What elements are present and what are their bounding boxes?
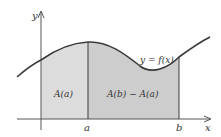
tick-label-b: b xyxy=(176,122,182,133)
diagram-svg: y x a b y = f(x) A(a) A(b) − A(a) xyxy=(0,0,221,137)
curve-label: y = f(x) xyxy=(139,55,174,65)
area-function-diagram: y x a b y = f(x) A(a) A(b) − A(a) xyxy=(0,0,221,137)
region-label-a-of-b-minus-a-of-a: A(b) − A(a) xyxy=(106,89,159,99)
region-a-of-a xyxy=(41,42,88,119)
region-label-a-of-a: A(a) xyxy=(53,89,73,99)
y-axis-label: y xyxy=(31,10,38,21)
x-axis-label: x xyxy=(205,122,211,133)
tick-label-a: a xyxy=(84,122,90,133)
region-a-of-b-minus-a-of-a xyxy=(88,42,179,119)
